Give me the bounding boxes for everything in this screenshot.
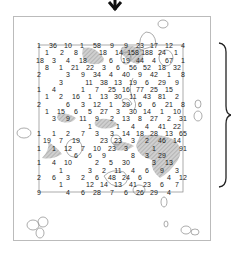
grid-count: 41 xyxy=(129,181,137,188)
grid-count: 1 xyxy=(45,49,49,56)
grid-count: 23 xyxy=(114,137,122,144)
grid-count: 2 xyxy=(60,49,64,56)
grid-count: 3 xyxy=(66,71,70,78)
grid-count: 1 xyxy=(88,93,92,100)
grid-count: 7 xyxy=(175,181,179,188)
grid-count: 1 xyxy=(59,181,63,188)
grid-count: 19 xyxy=(43,137,51,144)
grid-count: 10 xyxy=(64,159,72,166)
grid-count: 3 xyxy=(66,174,70,181)
grid-count: 18 xyxy=(79,57,87,64)
grid-count: 1 xyxy=(109,101,113,108)
grid-count: 12 xyxy=(64,145,72,152)
grid-count: 4 xyxy=(52,86,56,93)
grid-count: 36 xyxy=(49,42,57,49)
grid-count: 42 xyxy=(150,71,158,78)
grid-count: 8 xyxy=(131,152,135,159)
grid-count: 28 xyxy=(150,130,158,137)
grid-count: 22 xyxy=(173,123,181,130)
grid-count: 13 xyxy=(122,115,130,122)
grid-count: 5 xyxy=(88,108,92,115)
grid-count: 25 xyxy=(150,86,158,93)
grid-count: 1 xyxy=(167,71,171,78)
grid-count: 6 xyxy=(109,57,113,64)
grid-count: 11 xyxy=(129,93,136,100)
grid-count: 1 xyxy=(45,108,49,115)
grid-count: 2 xyxy=(110,115,114,122)
grid-count: 16 xyxy=(122,86,130,93)
grid-count: 13 xyxy=(114,181,122,188)
grid-count: 1 xyxy=(37,145,41,152)
grid-count: 56 xyxy=(129,64,137,71)
grid-count: 1 xyxy=(174,49,178,56)
grid-count: 1 xyxy=(37,159,41,166)
grid-count: 14 xyxy=(115,49,123,56)
grid-count: 9 xyxy=(102,152,106,159)
grid-count: 2 xyxy=(37,71,41,78)
grid-count: 9 xyxy=(66,115,70,122)
grid-count: 44 xyxy=(136,57,144,64)
curly-brace-icon xyxy=(219,43,231,187)
grid-count: 38 xyxy=(100,79,108,86)
grid-count: 15 xyxy=(57,108,65,115)
grid-count: 23 xyxy=(100,137,108,144)
grid-count: 16 xyxy=(72,93,80,100)
grid-count: 9 xyxy=(95,115,99,122)
grid-count: 6 xyxy=(124,189,128,196)
grid-count: 9 xyxy=(110,42,114,49)
grid-count: 12 xyxy=(165,42,173,49)
grid-count: 9 xyxy=(175,79,179,86)
grid-count: 6 xyxy=(52,174,56,181)
grid-count: 8 xyxy=(181,101,185,108)
grid-count: 77 xyxy=(136,86,144,93)
grid-count: 188 xyxy=(141,49,153,56)
grid-count: 19 xyxy=(122,57,130,64)
grid-count: 7 xyxy=(95,86,99,93)
grid-count: 3 xyxy=(124,145,128,152)
grid-count: 9 xyxy=(124,42,128,49)
grid-count: 4 xyxy=(152,57,156,64)
grid-count: 4 xyxy=(66,189,70,196)
grid-count: 46 xyxy=(158,137,166,144)
grid-count: 3 xyxy=(59,79,63,86)
grid-count: 6 xyxy=(74,152,78,159)
grid-count: 23 xyxy=(136,42,144,49)
grid-count: 2 xyxy=(37,174,41,181)
grid-count: 3 xyxy=(131,137,135,144)
grid-count: 18 xyxy=(158,64,166,71)
grid-count: 18 xyxy=(99,49,107,56)
grid-count: 5 xyxy=(109,159,113,166)
grid-count: 27 xyxy=(150,115,158,122)
grid-count: 67 xyxy=(165,57,173,64)
grid-count: 1 xyxy=(52,145,56,152)
grid-count: 2 xyxy=(175,93,179,100)
grid-count: 21 xyxy=(165,101,173,108)
grid-count: 24 xyxy=(158,49,166,56)
grid-count: 3 xyxy=(52,115,56,122)
grid-count: 9 xyxy=(160,167,164,174)
grid-count: 23 xyxy=(143,181,151,188)
grid-count: 15 xyxy=(165,86,173,93)
grid-count: 4 xyxy=(167,174,171,181)
grid-count: 4 xyxy=(109,71,113,78)
grid-count: 3 xyxy=(145,152,149,159)
grid-count: 8 xyxy=(181,71,185,78)
grid-count: 3 xyxy=(102,64,106,71)
grid-count: 10 xyxy=(64,42,72,49)
grid-count: 4 xyxy=(145,123,149,130)
grid-count: 14 xyxy=(100,181,108,188)
grid-count: 52 xyxy=(143,64,151,71)
grid-count: 1 xyxy=(45,93,49,100)
grid-count: 1 xyxy=(59,167,63,174)
grid-count: 7 xyxy=(110,189,114,196)
grid-count: 41 xyxy=(158,123,166,130)
grid-count: 6 xyxy=(95,174,99,181)
grid-count: 18 xyxy=(136,130,144,137)
grid-count: 9 xyxy=(81,71,85,78)
grid-count: 91 xyxy=(179,145,187,152)
grid-count: 1 xyxy=(80,42,84,49)
grid-count: 9 xyxy=(138,71,142,78)
grid-count: 1 xyxy=(37,86,41,93)
grid-count: 30 xyxy=(114,93,122,100)
grid-count: 6 xyxy=(145,167,149,174)
